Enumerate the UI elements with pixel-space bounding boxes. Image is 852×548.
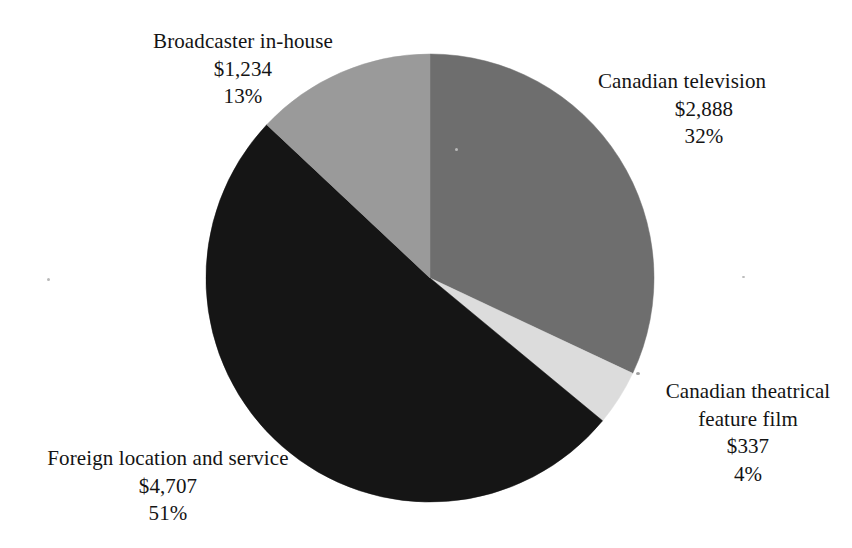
slice-label-amount: $4,707 — [18, 473, 318, 501]
slice-label-title-line1: Canadian theatrical — [648, 378, 848, 406]
scan-speckle — [742, 276, 745, 278]
slice-label-canadian-television: Canadian television $2,888 32% — [598, 68, 828, 151]
pie-slice-group — [206, 54, 654, 502]
slice-label-title-line2: feature film — [648, 406, 848, 434]
pie-chart-figure: Broadcaster in-house $1,234 13% Canadian… — [0, 0, 852, 548]
slice-label-title: Foreign location and service — [18, 445, 318, 473]
slice-label-amount: $1,234 — [118, 56, 368, 84]
pie-svg — [205, 53, 655, 503]
scan-speckle — [47, 278, 50, 281]
slice-label-title: Canadian television — [598, 68, 828, 96]
slice-label-amount: $2,888 — [598, 96, 828, 124]
slice-label-amount: $337 — [648, 433, 848, 461]
slice-label-percent: 4% — [648, 461, 848, 489]
slice-label-canadian-theatrical-feature-film: Canadian theatrical feature film $337 4% — [648, 378, 848, 489]
slice-label-foreign-location-and-service: Foreign location and service $4,707 51% — [18, 445, 318, 528]
slice-label-percent: 13% — [118, 83, 368, 111]
pie-chart-graphic — [205, 53, 655, 503]
slice-label-broadcaster-in-house: Broadcaster in-house $1,234 13% — [118, 28, 368, 111]
slice-label-title: Broadcaster in-house — [118, 28, 368, 56]
slice-label-percent: 51% — [18, 500, 318, 528]
slice-label-percent: 32% — [598, 123, 828, 151]
